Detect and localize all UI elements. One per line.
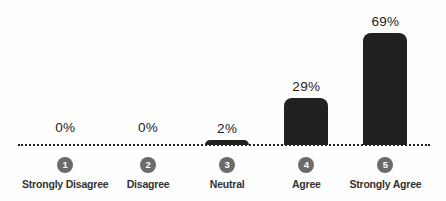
scale-number-badge: 1	[57, 157, 73, 173]
chart-column-4: 29%4Agree	[267, 0, 346, 201]
bar-area: 0%	[108, 0, 187, 145]
bar-area: 2%	[188, 0, 267, 145]
category-area: 3Neutral	[210, 157, 245, 190]
value-label: 29%	[292, 80, 320, 95]
category-area: 1Strongly Disagree	[22, 157, 108, 190]
scale-number-badge: 3	[219, 157, 235, 173]
scale-number-badge: 4	[298, 157, 314, 173]
bar	[205, 140, 249, 145]
chart-column-1: 0%1Strongly Disagree	[22, 0, 108, 201]
category-label: Neutral	[210, 178, 245, 190]
bar-area: 0%	[22, 0, 108, 145]
category-label: Disagree	[127, 178, 170, 190]
value-label: 0%	[55, 121, 75, 136]
category-area: 5Strongly Agree	[349, 157, 421, 190]
value-label: 2%	[217, 122, 237, 137]
bar-area: 69%	[346, 0, 425, 145]
bar	[284, 98, 328, 145]
bar-area: 29%	[267, 0, 346, 145]
value-label: 0%	[138, 121, 158, 136]
chart-column-2: 0%2Disagree	[108, 0, 187, 201]
category-area: 2Disagree	[127, 157, 170, 190]
category-label: Strongly Disagree	[22, 178, 108, 190]
chart-columns: 0%1Strongly Disagree0%2Disagree2%3Neutra…	[22, 0, 425, 201]
chart-column-3: 2%3Neutral	[188, 0, 267, 201]
bar	[363, 33, 407, 145]
scale-number-badge: 2	[140, 157, 156, 173]
category-label: Strongly Agree	[349, 178, 421, 190]
likert-bar-chart: 0%1Strongly Disagree0%2Disagree2%3Neutra…	[0, 0, 446, 201]
value-label: 69%	[372, 15, 400, 30]
category-label: Agree	[292, 178, 321, 190]
category-area: 4Agree	[292, 157, 321, 190]
scale-number-badge: 5	[377, 157, 393, 173]
chart-column-5: 69%5Strongly Agree	[346, 0, 425, 201]
